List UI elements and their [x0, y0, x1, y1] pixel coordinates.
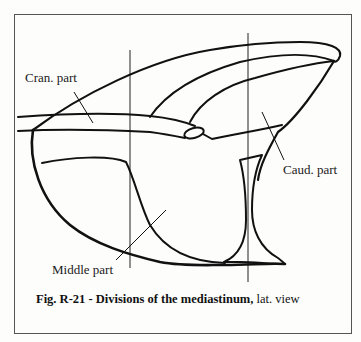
label-caudal-part: Caud. part [283, 163, 337, 176]
figure-caption: Fig. R-21 - Divisions of the mediastinum… [36, 292, 300, 307]
label-leader-lines [74, 92, 284, 260]
middle-leader-line [116, 210, 166, 260]
caudal-leader-line [262, 112, 284, 160]
caption-view: lat. view [253, 292, 299, 306]
caption-title: Fig. R-21 - Divisions of the mediastinum… [36, 292, 253, 306]
mediastinum-figure: Cran. part Caud. part Middle part Fig. R… [0, 0, 361, 342]
label-cranial-part: Cran. part [25, 71, 77, 84]
label-middle-part: Middle part [52, 263, 113, 276]
